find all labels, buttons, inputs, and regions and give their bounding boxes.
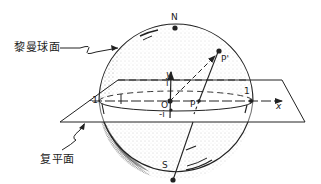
point-p [197, 99, 201, 103]
tick-plus-one [245, 105, 247, 113]
origin-point [167, 98, 172, 103]
plus-i-label: i [166, 79, 169, 88]
south-pole-label: S [162, 161, 168, 170]
plane-label: 复平面 [40, 154, 75, 165]
minus-i-label: -i [159, 110, 165, 119]
sphere-upper-shading [99, 24, 253, 101]
equator-front [99, 101, 253, 111]
north-pole-label: N [171, 13, 178, 22]
sphere-label-arrow [60, 46, 118, 53]
x-axis-label: x [276, 102, 281, 111]
point-p-label: P [190, 100, 195, 109]
minus-one-label: -1 [89, 96, 98, 105]
south-pole-point [170, 177, 175, 182]
north-pole-point [172, 25, 177, 30]
point-plus-one [249, 99, 253, 103]
plus-one-label: 1 [244, 87, 250, 96]
point-p-prime [216, 48, 221, 53]
point-minus-i [169, 108, 172, 111]
point-p-prime-label: P' [221, 55, 229, 64]
tick-minus-one [102, 104, 104, 114]
sphere-label: 黎曼球面 [14, 42, 60, 53]
